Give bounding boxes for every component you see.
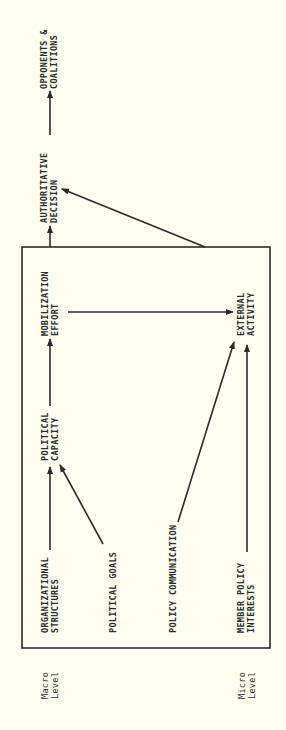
level-macro-line2: Level xyxy=(50,672,60,699)
arrow-goals-to-capacity xyxy=(60,465,103,544)
node-opponents-line1: OPPONENTS & xyxy=(39,29,49,89)
level-macro-line1: Macro xyxy=(40,672,50,699)
node-organizational-structures: ORGANIZATIONALSTRUCTURES xyxy=(40,557,60,633)
node-political-capacity: POLITICALCAPACITY xyxy=(40,412,60,461)
node-opponents-line2: COALITIONS xyxy=(49,29,59,89)
node-external-line2: ACTIVITY xyxy=(246,293,256,336)
node-capacity-line2: CAPACITY xyxy=(50,412,60,461)
node-org-line2: STRUCTURES xyxy=(50,557,60,633)
level-macro: MacroLevel xyxy=(40,672,60,699)
node-external-activity: EXTERNALACTIVITY xyxy=(236,293,256,336)
node-member-line1: MEMBER POLICY xyxy=(236,563,246,633)
level-micro-line1: Micro xyxy=(237,672,247,699)
node-org-line1: ORGANIZATIONAL xyxy=(40,557,50,633)
node-external-line1: EXTERNAL xyxy=(236,293,246,336)
node-authoritative-line2: DECISION xyxy=(49,153,59,223)
node-political-goals: POLITICAL GOALS xyxy=(108,552,118,633)
level-micro-line2: Level xyxy=(247,672,257,699)
node-member-policy-interests: MEMBER POLICYINTERESTS xyxy=(236,563,256,633)
node-policy-communication: POLICY COMMUNICATION xyxy=(168,525,178,633)
arrow-policycomm-to-external xyxy=(178,342,234,522)
node-authoritative-line1: AUTHORITATIVE xyxy=(39,153,49,223)
node-policycomm-line1: POLICY COMMUNICATION xyxy=(168,525,178,633)
arrow-box-diag-to-auth xyxy=(62,189,205,247)
node-capacity-line1: POLITICAL xyxy=(40,412,50,461)
level-micro: MicroLevel xyxy=(237,672,257,699)
node-mobilization-effort: MOBILIZATIONEFFORT xyxy=(40,271,60,336)
node-mobilization-line1: MOBILIZATION xyxy=(40,271,50,336)
node-goals-line1: POLITICAL GOALS xyxy=(108,552,118,633)
node-opponents: OPPONENTS &COALITIONS xyxy=(39,29,59,89)
node-member-line2: INTERESTS xyxy=(246,563,256,633)
node-authoritative-decision: AUTHORITATIVEDECISION xyxy=(39,153,59,223)
node-mobilization-line2: EFFORT xyxy=(50,271,60,336)
